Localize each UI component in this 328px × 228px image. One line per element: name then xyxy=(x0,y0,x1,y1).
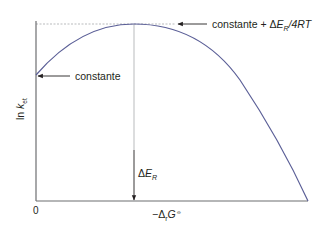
rate-curve xyxy=(36,24,308,201)
origin-label: 0 xyxy=(33,205,39,216)
intercept-label: constante xyxy=(75,70,121,82)
maximum-label: constante + ΔER/4RT xyxy=(212,18,313,32)
reorg-energy-label: ΔER xyxy=(138,167,157,181)
y-axis-label: ln ket xyxy=(14,98,28,120)
x-axis-label: −ΔrG⦵ xyxy=(152,208,182,222)
marcus-diagram: constante constante + ΔER/4RT ΔER 0 −ΔrG… xyxy=(0,0,328,228)
